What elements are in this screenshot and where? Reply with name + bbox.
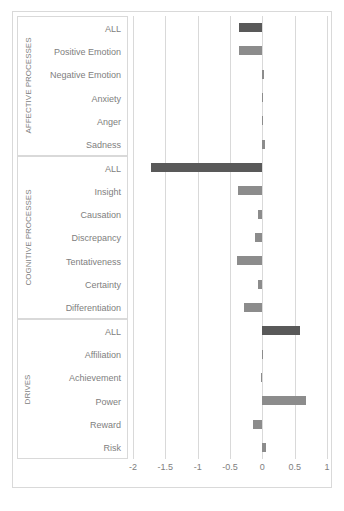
category-label: Discrepancy	[36, 233, 121, 243]
x-tick-label: 0.5	[288, 462, 301, 472]
gridline	[262, 16, 263, 459]
bar	[262, 326, 300, 335]
bar	[262, 396, 305, 405]
bar	[253, 420, 262, 429]
bar	[239, 23, 262, 32]
gridline	[295, 16, 296, 459]
category-labels: ALLAffiliationAchievementPowerRewardRisk	[36, 320, 121, 458]
category-label: Tentativeness	[36, 257, 121, 267]
bar	[255, 233, 263, 242]
x-tick-label: -1	[194, 462, 202, 472]
gridline	[198, 16, 199, 459]
x-tick-label: -0.5	[222, 462, 238, 472]
category-label: Differentiation	[36, 303, 121, 313]
group-title: DRIVES	[20, 320, 36, 458]
group-title-label: DRIVES	[24, 374, 33, 404]
bar	[258, 210, 262, 219]
category-label: ALL	[36, 24, 121, 34]
x-tick-label: -2	[129, 462, 137, 472]
group-block-drives: DRIVESALLAffiliationAchievementPowerRewa…	[17, 319, 128, 459]
gridline	[133, 16, 134, 459]
x-tick-label: -1.5	[158, 462, 174, 472]
category-label: Affiliation	[36, 350, 121, 360]
bar	[262, 350, 263, 359]
bar	[262, 93, 263, 102]
gridline	[230, 16, 231, 459]
category-labels: ALLPositive EmotionNegative EmotionAnxie…	[36, 17, 121, 155]
group-title-label: AFFECTIVE PROCESSES	[24, 38, 33, 134]
bar	[262, 140, 265, 149]
category-label: Anger	[36, 117, 121, 127]
category-label: Insight	[36, 187, 121, 197]
x-axis: -2-1.5-1-0.500.51	[133, 462, 327, 478]
bar	[262, 443, 265, 452]
category-label: Power	[36, 397, 121, 407]
group-title-label: COGNITIVE PROCESSES	[24, 189, 33, 285]
category-label: Reward	[36, 420, 121, 430]
category-label: ALL	[36, 164, 121, 174]
category-label: Certainty	[36, 280, 121, 290]
bar	[258, 280, 263, 289]
bar	[262, 116, 263, 125]
gridline	[327, 16, 328, 459]
group-block-affective-processes: AFFECTIVE PROCESSESALLPositive EmotionNe…	[17, 16, 128, 156]
bar	[239, 46, 262, 55]
category-label: ALL	[36, 327, 121, 337]
plot-area	[133, 16, 327, 459]
bar	[238, 186, 262, 195]
category-label: Risk	[36, 443, 121, 453]
group-title: COGNITIVE PROCESSES	[20, 157, 36, 318]
bar	[262, 70, 264, 79]
category-labels: ALLInsightCausationDiscrepancyTentativen…	[36, 157, 121, 318]
category-label: Positive Emotion	[36, 47, 121, 57]
x-tick-label: 0	[260, 462, 265, 472]
bar-chart: AFFECTIVE PROCESSESALLPositive EmotionNe…	[0, 0, 344, 511]
category-label-column: AFFECTIVE PROCESSESALLPositive EmotionNe…	[17, 16, 128, 459]
bar	[244, 303, 263, 312]
x-tick-label: 1	[324, 462, 329, 472]
gridline	[165, 16, 166, 459]
category-label: Causation	[36, 210, 121, 220]
bar	[151, 163, 262, 172]
category-label: Sadness	[36, 140, 121, 150]
bar	[237, 256, 262, 265]
category-label: Achievement	[36, 373, 121, 383]
group-block-cognitive-processes: COGNITIVE PROCESSESALLInsightCausationDi…	[17, 156, 128, 319]
category-label: Negative Emotion	[36, 70, 121, 80]
bar	[261, 373, 262, 382]
group-title: AFFECTIVE PROCESSES	[20, 17, 36, 155]
category-label: Anxiety	[36, 94, 121, 104]
